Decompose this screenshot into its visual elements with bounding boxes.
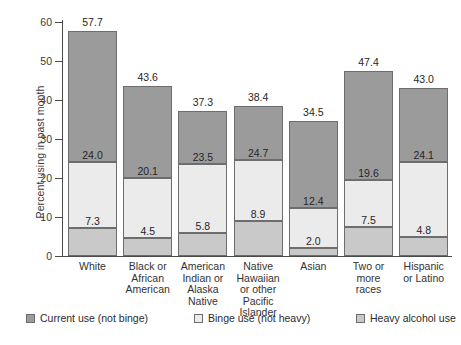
bar-segment-heavy-use[interactable] bbox=[178, 233, 227, 256]
bar-group[interactable]: 47.419.67.5 bbox=[344, 0, 393, 345]
bar-boundary-label-heavy-top: 4.5 bbox=[123, 226, 172, 237]
y-axis-tick-label: 30 bbox=[26, 134, 52, 145]
bar-segment-current-use[interactable] bbox=[123, 86, 172, 178]
y-axis-tick-label: 10 bbox=[26, 212, 52, 223]
bar-total-label: 34.5 bbox=[283, 107, 344, 118]
bar-segment-current-use[interactable] bbox=[344, 71, 393, 179]
y-axis-tick-label: 50 bbox=[26, 56, 52, 67]
bar-segment-heavy-use[interactable] bbox=[399, 237, 448, 256]
y-axis-tick bbox=[55, 256, 62, 257]
bar-boundary-label-binge-top: 19.6 bbox=[344, 168, 393, 179]
bar-total-label: 43.6 bbox=[117, 72, 178, 83]
bar-boundary-label-heavy-top: 7.3 bbox=[68, 216, 117, 227]
y-axis-tick-label: 40 bbox=[26, 95, 52, 106]
bar-group[interactable]: 38.424.78.9 bbox=[234, 0, 283, 345]
bar-boundary-label-heavy-top: 8.9 bbox=[234, 209, 283, 220]
bar-segment-heavy-use[interactable] bbox=[289, 248, 338, 256]
bar-boundary-label-heavy-top: 5.8 bbox=[178, 221, 227, 232]
bar-group[interactable]: 43.620.14.5 bbox=[123, 0, 172, 345]
y-axis-tick bbox=[55, 61, 62, 62]
y-axis-tick bbox=[55, 22, 62, 23]
bar-segment-heavy-use[interactable] bbox=[344, 227, 393, 256]
bar-group[interactable]: 34.512.42.0 bbox=[289, 0, 338, 345]
bar-total-label: 47.4 bbox=[338, 57, 399, 68]
bar-segment-heavy-use[interactable] bbox=[234, 221, 283, 256]
bar-boundary-label-binge-top: 20.1 bbox=[123, 166, 172, 177]
bar-boundary-label-heavy-top: 7.5 bbox=[344, 215, 393, 226]
legend-swatch-icon bbox=[26, 314, 35, 323]
bar-boundary-label-heavy-top: 4.8 bbox=[399, 225, 448, 236]
bar-boundary-label-binge-top: 24.7 bbox=[234, 148, 283, 159]
y-axis-tick-label: 20 bbox=[26, 173, 52, 184]
stacked-bar-chart: Percent using in past month 010203040506… bbox=[0, 0, 461, 345]
bar-boundary-label-binge-top: 24.1 bbox=[399, 150, 448, 161]
bar-segment-heavy-use[interactable] bbox=[68, 228, 117, 256]
y-axis-tick bbox=[55, 139, 62, 140]
bar-boundary-label-binge-top: 12.4 bbox=[289, 196, 338, 207]
y-axis-tick-label: 0 bbox=[26, 251, 52, 262]
bar-total-label: 38.4 bbox=[228, 92, 289, 103]
y-axis-tick bbox=[55, 217, 62, 218]
bar-boundary-label-binge-top: 24.0 bbox=[68, 150, 117, 161]
bar-boundary-label-heavy-top: 2.0 bbox=[289, 236, 338, 247]
bar-total-label: 37.3 bbox=[172, 97, 233, 108]
bar-group[interactable]: 57.724.07.3 bbox=[68, 0, 117, 345]
bar-segment-heavy-use[interactable] bbox=[123, 238, 172, 256]
bar-total-label: 43.0 bbox=[393, 74, 454, 85]
bar-group[interactable]: 43.024.14.8 bbox=[399, 0, 448, 345]
y-axis-tick bbox=[55, 178, 62, 179]
y-axis-tick-label: 60 bbox=[26, 17, 52, 28]
bar-boundary-label-binge-top: 23.5 bbox=[178, 152, 227, 163]
bar-total-label: 57.7 bbox=[62, 17, 123, 28]
y-axis-tick bbox=[55, 100, 62, 101]
bar-segment-current-use[interactable] bbox=[68, 31, 117, 162]
bar-group[interactable]: 37.323.55.8 bbox=[178, 0, 227, 345]
